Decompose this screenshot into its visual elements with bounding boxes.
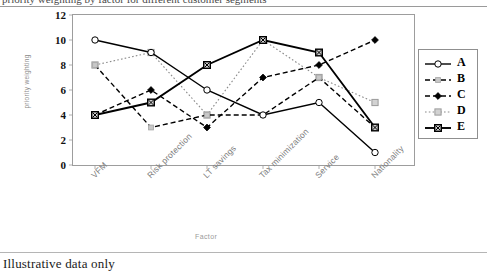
chart-figure: priority weighting by factor for differe… bbox=[0, 0, 487, 278]
legend-label-C: C bbox=[457, 88, 466, 100]
legend-swatch-D bbox=[423, 104, 453, 116]
legend-label-B: B bbox=[457, 72, 465, 84]
legend-swatch-E bbox=[423, 120, 453, 132]
series-A bbox=[92, 37, 378, 156]
chart-plot bbox=[0, 0, 487, 278]
bottom-divider bbox=[0, 252, 487, 253]
legend-item-A[interactable]: A bbox=[423, 55, 477, 68]
legend-swatch-B bbox=[423, 72, 453, 84]
legend-label-E: E bbox=[457, 120, 465, 132]
legend-item-C[interactable]: C bbox=[423, 87, 477, 100]
legend-swatch-C bbox=[423, 88, 453, 100]
legend-item-B[interactable]: B bbox=[423, 71, 477, 84]
legend-label-D: D bbox=[457, 104, 466, 116]
legend-item-D[interactable]: D bbox=[423, 103, 477, 116]
legend: ABCDE bbox=[418, 49, 478, 139]
legend-swatch-A bbox=[423, 56, 453, 68]
legend-label-A: A bbox=[457, 56, 466, 68]
figure-caption: Illustrative data only bbox=[3, 256, 115, 272]
legend-item-E[interactable]: E bbox=[423, 119, 477, 132]
